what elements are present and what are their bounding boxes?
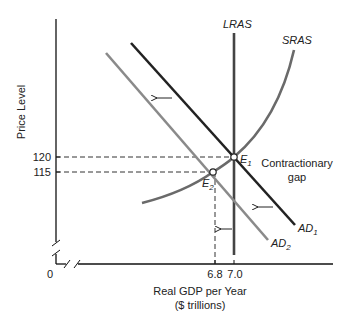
x-tick-6-8: 6.8 [207, 268, 222, 280]
y-tick-120: 120 [33, 151, 51, 163]
x-axis-units: ($ trillions) [175, 299, 226, 311]
sras-label: SRAS [282, 34, 313, 46]
y-axis [52, 19, 60, 264]
x-axis [56, 260, 333, 268]
e1-point [231, 154, 237, 160]
sras-curve [142, 50, 294, 203]
ad1-label: AD1 [297, 222, 318, 237]
y-axis-title: Price Level [15, 85, 27, 139]
ad1-curve [131, 43, 295, 225]
e2-label: E2 [202, 177, 214, 192]
gap-label-line1: Contractionary [261, 157, 333, 169]
ad2-label: AD2 [270, 237, 291, 252]
y-tick-115: 115 [33, 166, 51, 178]
origin-label: 0 [47, 268, 53, 280]
x-tick-7-0: 7.0 [227, 268, 242, 280]
e2-point [210, 169, 216, 175]
guide-lines [56, 157, 234, 264]
gap-label-line2: gap [288, 171, 306, 183]
ad-as-diagram: LRAS SRAS AD1 AD2 E1 E2 Contractionary g… [0, 0, 346, 319]
lras-label: LRAS [223, 18, 252, 30]
shift-arrows [156, 98, 273, 229]
x-axis-title: Real GDP per Year [153, 285, 247, 297]
